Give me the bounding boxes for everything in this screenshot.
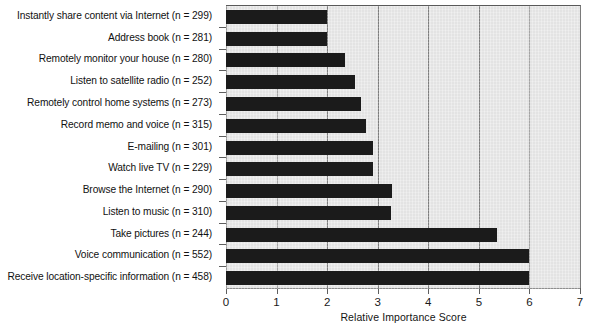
bar bbox=[226, 184, 392, 198]
x-axis-tick-label: 4 bbox=[416, 296, 440, 308]
category-tick bbox=[219, 92, 226, 93]
gridline bbox=[378, 6, 379, 289]
bar bbox=[226, 141, 373, 155]
x-axis-tick bbox=[277, 288, 278, 294]
gridline bbox=[529, 6, 530, 289]
x-axis-title: Relative Importance Score bbox=[226, 311, 581, 323]
category-tick bbox=[219, 27, 226, 28]
bar bbox=[226, 53, 345, 67]
category-tick bbox=[219, 223, 226, 224]
category-tick bbox=[219, 266, 226, 267]
x-axis-line bbox=[226, 288, 581, 289]
category-label: Record memo and voice (n = 315) bbox=[0, 119, 212, 130]
x-axis-tick bbox=[479, 288, 480, 294]
plot-area bbox=[226, 5, 581, 289]
category-axis-labels: Instantly share content via Internet (n … bbox=[0, 5, 212, 288]
category-tick bbox=[219, 157, 226, 158]
category-label: Listen to satellite radio (n = 252) bbox=[0, 75, 212, 86]
category-label: Address book (n = 281) bbox=[0, 32, 212, 43]
gridline bbox=[428, 6, 429, 289]
bar bbox=[226, 271, 529, 285]
category-tick bbox=[219, 136, 226, 137]
category-label: Remotely monitor your house (n = 280) bbox=[0, 53, 212, 64]
bar bbox=[226, 249, 529, 263]
x-axis-tick-label: 5 bbox=[467, 296, 491, 308]
category-label: Remotely control home systems (n = 273) bbox=[0, 97, 212, 108]
category-tick bbox=[219, 179, 226, 180]
category-tick bbox=[219, 244, 226, 245]
gridline bbox=[479, 6, 480, 289]
category-label: Listen to music (n = 310) bbox=[0, 206, 212, 217]
category-label: Watch live TV (n = 229) bbox=[0, 162, 212, 173]
bar bbox=[226, 10, 327, 24]
x-axis-tick-label: 7 bbox=[568, 296, 590, 308]
x-axis-tick bbox=[428, 288, 429, 294]
bar bbox=[226, 97, 361, 111]
x-axis-tick-label: 3 bbox=[366, 296, 390, 308]
category-label: Receive location-specific information (n… bbox=[0, 271, 212, 282]
x-axis-tick-label: 0 bbox=[214, 296, 238, 308]
bar-chart: Instantly share content via Internet (n … bbox=[0, 0, 590, 325]
category-label: Browse the Internet (n = 290) bbox=[0, 184, 212, 195]
x-axis-tick-label: 2 bbox=[315, 296, 339, 308]
x-axis-tick bbox=[529, 288, 530, 294]
x-axis-tick bbox=[378, 288, 379, 294]
category-label: Take pictures (n = 244) bbox=[0, 228, 212, 239]
category-tick bbox=[219, 201, 226, 202]
category-tick bbox=[219, 49, 226, 50]
bar bbox=[226, 75, 355, 89]
category-label: Voice communication (n = 552) bbox=[0, 249, 212, 260]
bar bbox=[226, 32, 327, 46]
bar bbox=[226, 162, 373, 176]
x-axis-tick-label: 1 bbox=[265, 296, 289, 308]
bar bbox=[226, 228, 497, 242]
category-label: E-mailing (n = 301) bbox=[0, 141, 212, 152]
bar bbox=[226, 206, 391, 220]
category-tick bbox=[219, 114, 226, 115]
category-tick bbox=[219, 70, 226, 71]
x-axis-tick-label: 6 bbox=[517, 296, 541, 308]
x-axis-tick bbox=[226, 288, 227, 294]
bar bbox=[226, 119, 366, 133]
x-axis-tick bbox=[580, 288, 581, 294]
category-label: Instantly share content via Internet (n … bbox=[0, 10, 212, 21]
x-axis-tick bbox=[327, 288, 328, 294]
